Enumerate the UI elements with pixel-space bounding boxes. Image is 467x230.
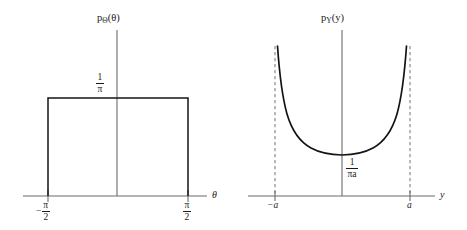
tick-label-neg-pi-over-2: − π 2 bbox=[36, 201, 50, 223]
fraction-numerator: 1 bbox=[346, 158, 358, 168]
arcsine-density-plot bbox=[233, 0, 467, 230]
fraction-one-over-pi: 1 π bbox=[96, 73, 104, 95]
panel-uniform-density: pΘ(θ) 1 π − π 2 π 2 θ bbox=[0, 0, 234, 230]
uniform-density-plot bbox=[0, 0, 234, 230]
fraction-numerator: π bbox=[42, 201, 50, 211]
fraction-pi-over-2: π 2 bbox=[42, 201, 50, 223]
signed-fraction-neg-pi-over-2: − π 2 bbox=[36, 201, 50, 223]
function-label-p-theta: pΘ(θ) bbox=[97, 13, 120, 24]
x-axis-label-y: y bbox=[440, 190, 444, 200]
tick-label-a: a bbox=[407, 201, 412, 211]
fraction-pi-over-2: π 2 bbox=[183, 201, 191, 223]
two-panel-pdf-figure: pΘ(θ) 1 π − π 2 π 2 θ bbox=[0, 0, 467, 230]
fraction-one-over-pi-a: 1 πa bbox=[346, 158, 358, 180]
uniform-pdf-rectangle bbox=[48, 98, 188, 196]
value-label-one-over-pi: 1 π bbox=[96, 73, 104, 95]
x-axis-label-theta: θ bbox=[212, 190, 217, 200]
fraction-numerator: π bbox=[183, 201, 191, 211]
fraction-numerator: 1 bbox=[96, 73, 104, 83]
fraction-denominator: π bbox=[96, 83, 104, 94]
function-label-p-y: pY(y) bbox=[321, 13, 344, 24]
tick-label-neg-a: −a bbox=[267, 201, 278, 211]
function-label-argument: (y) bbox=[332, 12, 344, 23]
value-label-one-over-pi-a: 1 πa bbox=[346, 158, 358, 180]
tick-label-pi-over-2: π 2 bbox=[183, 201, 191, 223]
fraction-denominator: πa bbox=[346, 168, 358, 179]
function-label-argument: (θ) bbox=[108, 12, 120, 23]
fraction-denominator: 2 bbox=[183, 211, 191, 222]
panel-arcsine-density: pY(y) 1 πa −a a y bbox=[233, 0, 467, 230]
fraction-denominator: 2 bbox=[42, 211, 50, 222]
